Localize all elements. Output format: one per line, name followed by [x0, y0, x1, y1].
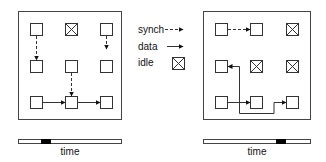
right-time-label: time: [248, 146, 267, 157]
node: [31, 61, 43, 73]
node: [101, 97, 113, 109]
legend-idle-icon: [173, 58, 185, 70]
legend: synch data idle: [138, 24, 185, 70]
legend-idle-label: idle: [138, 57, 154, 68]
node: [216, 24, 228, 36]
node: [66, 97, 78, 109]
node: [216, 61, 228, 73]
node: [66, 61, 78, 73]
node: [251, 24, 263, 36]
legend-synch-label: synch: [138, 24, 164, 35]
diagram-canvas: time synch data idle: [0, 0, 326, 162]
node: [31, 97, 43, 109]
left-timeline-marker: [41, 139, 51, 144]
legend-data-label: data: [138, 41, 158, 52]
right-panel: time: [204, 12, 311, 158]
left-panel: time: [19, 12, 122, 158]
idle-node-icon: [251, 61, 263, 73]
node: [216, 97, 228, 109]
left-timeline-bar: [19, 140, 122, 144]
node: [287, 97, 299, 109]
node: [101, 61, 113, 73]
node-idle-free: [31, 24, 43, 36]
left-time-label: time: [61, 146, 80, 157]
right-timeline-marker: [276, 139, 286, 144]
idle-node-icon: [287, 61, 299, 73]
node: [101, 24, 113, 36]
right-timeline-bar: [204, 140, 311, 144]
idle-node-icon: [287, 24, 299, 36]
node: [251, 97, 263, 109]
idle-node-icon: [66, 24, 78, 36]
